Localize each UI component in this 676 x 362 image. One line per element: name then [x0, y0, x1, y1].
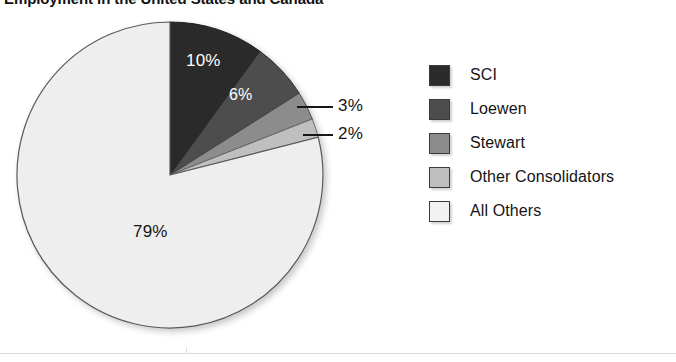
legend-item-sci: SCI [429, 58, 669, 92]
legend-item-stewart: Stewart [429, 126, 669, 160]
pie-label-sci-percent: 10% [186, 51, 221, 71]
legend-swatch-icon-other-consolidators [429, 167, 450, 188]
pie-slices-group [17, 22, 323, 328]
legend-item-loewen: Loewen [429, 92, 669, 126]
legend-item-other-consolidators: Other Consolidators [429, 160, 669, 194]
pie-chart-figure: Employment in the United States and Cana… [0, 0, 676, 362]
pie-label-loewen-percent: 6% [229, 86, 253, 104]
legend-label-stewart: Stewart [470, 134, 525, 152]
legend-item-all-others: All Others [429, 194, 669, 228]
legend-label-other-consolidators: Other Consolidators [470, 168, 614, 186]
legend-label-sci: SCI [470, 66, 497, 84]
legend-label-all-others: All Others [470, 202, 541, 220]
pie-label-stewart-percent: 3% [338, 96, 363, 116]
legend-swatch-icon-sci [429, 65, 450, 86]
legend-swatch-icon-all-others [429, 201, 450, 222]
legend-label-loewen: Loewen [470, 100, 527, 118]
page-footer-tick [186, 347, 187, 354]
pie-label-all-others-percent: 79% [133, 222, 168, 242]
chart-legend: SCI Loewen Stewart Other Consolidators A… [429, 58, 669, 228]
legend-swatch-icon-loewen [429, 99, 450, 120]
page-footer-rule [0, 353, 676, 354]
pie-label-other-consolidators-percent: 2% [338, 124, 363, 144]
legend-swatch-icon-stewart [429, 133, 450, 154]
